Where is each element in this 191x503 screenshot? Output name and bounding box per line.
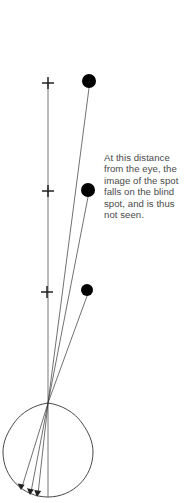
fixation-cross-mid <box>42 185 54 197</box>
ray-from-spot-near <box>48 296 87 403</box>
ray-from-spot-far <box>48 88 89 403</box>
spot-near <box>81 284 93 296</box>
spot-mid <box>81 183 95 197</box>
optical-ray-diagram <box>0 0 191 503</box>
fixation-cross-far <box>42 77 54 89</box>
spot-far <box>82 74 96 88</box>
ray-from-spot-mid <box>48 197 88 403</box>
retinal-ray-far <box>22 403 48 487</box>
retina-arrowhead-mid <box>27 488 34 495</box>
blind-spot-diagram: At this distance from the eye, the image… <box>0 0 191 503</box>
blind-spot-caption-text: At this distance from the eye, the image… <box>104 152 191 220</box>
fixation-cross-near <box>41 286 53 298</box>
